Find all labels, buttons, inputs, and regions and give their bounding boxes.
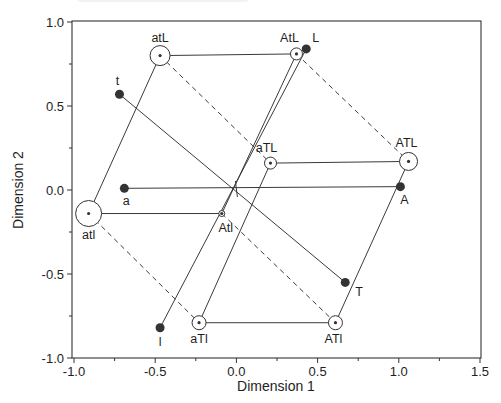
solid-line-atL-AtL (160, 54, 296, 56)
solid-line-a-A (124, 187, 400, 189)
dashed-line-atl-aTl (89, 214, 199, 323)
filled-marker (341, 278, 350, 287)
filled-marker (115, 90, 124, 99)
plot-frame (72, 21, 481, 358)
point-label: aTl (190, 332, 207, 346)
point-label: aTL (256, 141, 278, 155)
point-label: Atl (218, 221, 233, 235)
filled-marker (302, 44, 311, 53)
filled-marker (120, 184, 129, 193)
y-tick-label: -0.5 (42, 267, 64, 282)
axis-ticks: -1.0-0.50.00.51.01.51.00.50.0-0.5-1.0 (42, 15, 489, 380)
point-label: t (116, 74, 120, 88)
point-label: atL (151, 31, 168, 45)
y-tick-label: 1.0 (46, 15, 64, 30)
point-AtL: AtL (280, 31, 302, 60)
point-ATL: ATL (396, 136, 418, 170)
point-ATl: ATl (325, 316, 343, 346)
biplot-chart: -1.0-0.50.00.51.01.51.00.50.0-0.5-1.0 tL… (0, 0, 501, 403)
point-label: L (312, 31, 319, 45)
filled-marker (156, 323, 165, 332)
center-dot (407, 160, 410, 163)
center-dot (269, 162, 272, 165)
solid-line-aTL-ATL (271, 161, 409, 163)
point-l: l (156, 323, 165, 349)
data-points: tLaATlatLAtLaTLATLatlAtlaTlATl (76, 31, 418, 349)
dashed-line-atL-aTL (160, 56, 270, 164)
y-axis-label: Dimension 2 (10, 151, 26, 229)
center-dot (220, 212, 223, 215)
y-tick-label: 0.0 (46, 183, 64, 198)
point-atL: atL (150, 31, 170, 66)
point-t: t (115, 74, 124, 99)
center-dot (197, 321, 200, 324)
point-aTL: aTL (256, 141, 278, 169)
point-A: A (396, 182, 409, 207)
x-tick-label: -1.0 (63, 364, 85, 379)
point-label: ATL (396, 136, 418, 150)
dashed-line-Atl-ATl (222, 214, 336, 323)
point-T: T (341, 278, 364, 300)
point-label: T (355, 285, 363, 299)
dashed-line-AtL-ATL (296, 54, 408, 162)
point-label: a (123, 194, 130, 208)
x-tick-label: 0.5 (309, 364, 327, 379)
point-a: a (120, 184, 130, 209)
point-L: L (302, 31, 320, 54)
x-tick-label: 1.5 (471, 364, 489, 379)
point-Atl: Atl (218, 211, 233, 235)
x-axis-label: Dimension 1 (237, 378, 315, 394)
point-label: l (159, 335, 162, 349)
center-dot (158, 54, 161, 57)
point-label: atl (82, 228, 95, 242)
filled-marker (396, 182, 405, 191)
point-atl: atl (76, 201, 102, 242)
x-tick-label: 0.0 (227, 364, 245, 379)
point-label: ATl (325, 332, 343, 346)
plot-border (72, 21, 481, 358)
solid-line-aTl-aTL (199, 163, 270, 323)
y-tick-label: 0.5 (46, 99, 64, 114)
point-label: AtL (280, 31, 299, 45)
y-tick-label: -1.0 (42, 351, 64, 366)
point-aTl: aTl (190, 316, 207, 346)
center-dot (87, 212, 90, 215)
point-label: A (400, 193, 409, 207)
center-dot (334, 321, 337, 324)
x-tick-label: -0.5 (144, 364, 166, 379)
center-dot (295, 52, 298, 55)
x-tick-label: 1.0 (390, 364, 408, 379)
